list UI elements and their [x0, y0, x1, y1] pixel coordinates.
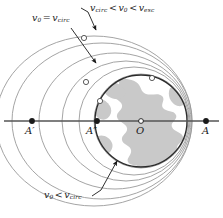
- label-less-than-operator-1: <: [107, 2, 118, 13]
- point-marker-A-prime: [29, 118, 35, 124]
- label-v0-lt-vcirc: v0<vcirc: [44, 190, 82, 201]
- leader-v0-lt-vcirc: [101, 161, 117, 190]
- label-vcirc-lt-v0-lt-vesc: vcirc<v0<vesc: [90, 3, 154, 14]
- marker-mid-left: [83, 79, 88, 84]
- label-less-than-operator-2: <: [128, 2, 139, 13]
- marker-inner-left: [97, 98, 102, 103]
- label-vcirc-subscript: circ: [70, 194, 82, 200]
- point-label-A-letter: A: [202, 125, 209, 136]
- point-marker-O-center: [139, 119, 144, 124]
- leader-v0-lt-vcirc-tail: [92, 190, 101, 196]
- label-less-than-operator: <: [53, 189, 64, 200]
- leader-vcirc-range-tick: [81, 8, 88, 12]
- leader-vcirc-range: [88, 12, 96, 30]
- point-label-O-letter: O: [136, 125, 144, 136]
- label-vcirc-subscript: circ: [58, 17, 70, 23]
- point-label-O-center: O: [136, 126, 144, 136]
- point-label-A-prime: A′: [25, 126, 35, 136]
- orbital-trajectories-diagram: v0=vcirc vcirc<v0<vesc v0<vcirc A′ A″ O …: [0, 0, 223, 218]
- point-label-A-prime-mark: ′: [32, 125, 34, 136]
- marker-outer-top: [81, 35, 86, 40]
- label-vesc-subscript: esc: [144, 7, 154, 13]
- point-marker-A-right: [203, 118, 209, 124]
- label-v0-equals-vcirc: v0=vcirc: [32, 13, 70, 24]
- point-label-A-right: A: [202, 126, 209, 136]
- leader-v0-eq-vcirc: [71, 28, 96, 63]
- point-label-A-double-prime: A″: [86, 126, 97, 136]
- marker-right-upper: [149, 75, 154, 80]
- point-label-A-double-prime-mark: ″: [93, 125, 97, 136]
- point-marker-A-double-prime: [94, 118, 100, 124]
- label-vcirc-subscript: circ: [95, 7, 107, 13]
- label-equals-operator: =: [41, 12, 52, 23]
- diagram-canvas: [0, 0, 223, 218]
